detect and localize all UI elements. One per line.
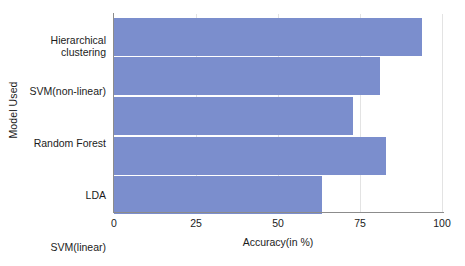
x-tick-label-50: 50 (272, 217, 284, 229)
y-axis-line (113, 13, 114, 213)
bar (114, 57, 380, 95)
y-tick-label-svm-linear: SVM(linear) (22, 241, 106, 253)
x-tick-label-0: 0 (111, 217, 117, 229)
y-tick-label-svm-non-linear: SVM(non-linear) (22, 85, 106, 97)
y-axis-title-label: Model Used (7, 81, 19, 138)
y-tick-label-lda: LDA (22, 189, 106, 201)
gridline-100 (442, 14, 443, 212)
bar-chart-figure: Model Used Hierarchical clustering SVM(n… (0, 0, 465, 266)
y-tick-label-random-forest: Random Forest (22, 137, 106, 149)
y-axis-tick-labels: Hierarchical clustering SVM(non-linear) … (24, 14, 110, 212)
bar (114, 97, 353, 135)
x-tick-label-25: 25 (190, 217, 202, 229)
x-tick-label-100: 100 (433, 217, 451, 229)
x-axis-line (113, 212, 444, 213)
y-axis-title: Model Used (2, 0, 24, 220)
x-axis-title: Accuracy(in %) (114, 236, 442, 248)
bar-series (114, 14, 442, 212)
y-tick-label-line-2: clustering (22, 46, 106, 58)
y-tick-label-hierarchical-clustering: Hierarchical clustering (22, 34, 106, 58)
x-tick-label-75: 75 (354, 217, 366, 229)
y-tick-label-line-1: Hierarchical (22, 34, 106, 46)
plot-area (114, 14, 442, 212)
bar (114, 18, 422, 56)
x-axis-tick-labels: 0 25 50 75 100 (0, 217, 465, 233)
bar (114, 137, 386, 175)
bar (114, 176, 322, 214)
